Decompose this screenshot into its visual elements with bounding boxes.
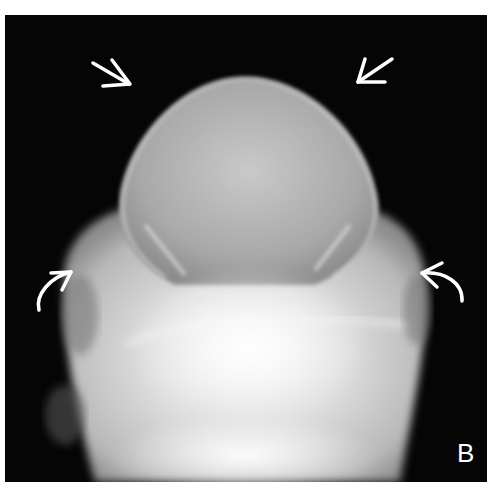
arrow-upper-right-icon <box>358 59 392 82</box>
arrow-upper-left-icon <box>93 60 130 86</box>
radiograph-image <box>5 15 487 482</box>
radiograph-panel: B <box>5 15 487 482</box>
panel-label: B <box>457 440 474 466</box>
